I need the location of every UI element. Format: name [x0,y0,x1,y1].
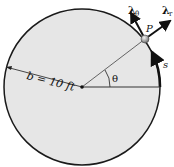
arc-label: s [163,59,168,70]
lambda-r-label: λ r [162,4,173,18]
svg-text:θ: θ [135,10,139,18]
circular-path-diagram: b = 10 ft θ P s λ θ λ r [0,0,174,167]
particle-p [141,35,149,43]
lambda-theta-label: λ θ [128,4,139,18]
center-point [80,85,84,89]
angle-label: θ [112,73,118,84]
point-label: P [145,23,153,34]
svg-text:r: r [169,10,173,18]
